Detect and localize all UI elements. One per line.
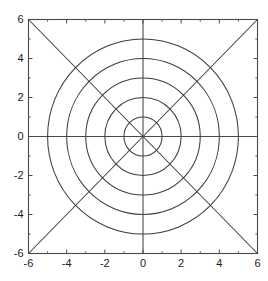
x-tick-label: 0 (140, 257, 146, 269)
y-tick-label: -2 (14, 169, 24, 181)
figure-canvas: -6-4-20246-6-4-20246 (0, 0, 268, 281)
x-tick-label: 4 (216, 257, 222, 269)
x-tick-label: -6 (24, 257, 34, 269)
x-tick-label: 6 (254, 257, 260, 269)
y-tick-label: 6 (17, 13, 23, 25)
x-tick-label: 2 (178, 257, 184, 269)
y-tick-label: 0 (17, 130, 23, 142)
y-tick-label: 4 (17, 52, 23, 64)
x-tick-label: -4 (62, 257, 72, 269)
y-tick-label: -6 (14, 247, 24, 259)
x-tick-label: -2 (100, 257, 110, 269)
polar-contour-plot: -6-4-20246-6-4-20246 (0, 0, 268, 281)
y-tick-label: 2 (17, 91, 23, 103)
y-tick-label: -4 (14, 208, 24, 220)
